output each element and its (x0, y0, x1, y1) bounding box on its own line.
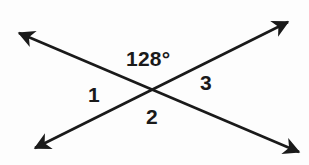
angle-label-2: 2 (146, 106, 158, 127)
diagram-background (0, 0, 309, 165)
angle-measure-label: 128° (126, 48, 170, 69)
intersecting-lines-diagram (0, 0, 309, 165)
angle-label-3: 3 (200, 72, 212, 93)
angle-label-1: 1 (88, 84, 100, 105)
geometry-figure: 128° 1 2 3 (0, 0, 309, 165)
